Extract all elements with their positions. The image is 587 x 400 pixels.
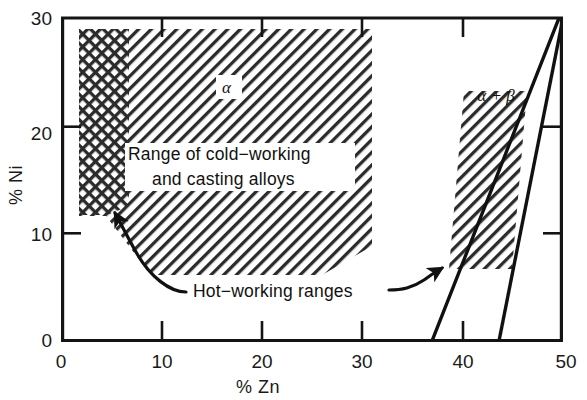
x-tick-label-0: 0 — [56, 351, 67, 372]
chart-svg: Range of cold−working and casting alloys… — [0, 0, 587, 400]
region-hot-working-left-band — [79, 29, 129, 215]
phase-label-alpha: α — [222, 78, 232, 97]
x-tick-label-50: 50 — [555, 351, 576, 372]
y-tick-label-0: 0 — [41, 330, 52, 351]
phase-label-alpha-plus-beta: α + β — [477, 86, 515, 105]
annotation-cold-working-line1: Range of cold−working — [128, 144, 311, 164]
y-tick-label-30: 30 — [31, 8, 52, 29]
y-tick-marks — [62, 18, 81, 340]
y-axis-title: % Ni — [6, 165, 26, 205]
y-tick-label-10: 10 — [31, 224, 52, 245]
boundary-alpha-beta-left-solvus — [432, 18, 559, 341]
x-tick-marks — [162, 321, 463, 340]
x-axis-title: % Zn — [236, 377, 280, 397]
x-tick-label-10: 10 — [151, 351, 172, 372]
annotation-hot-working-ranges: Hot−working ranges — [193, 281, 353, 301]
annotation-cold-working-line2: and casting alloys — [152, 169, 295, 189]
y-tick-label-20: 20 — [31, 123, 52, 144]
callout-arrow-right — [389, 268, 442, 290]
y-tick-marks-right — [543, 127, 562, 234]
x-tick-label-30: 30 — [351, 351, 372, 372]
region-hot-working-right-band — [449, 91, 527, 269]
phase-diagram-figure: Range of cold−working and casting alloys… — [0, 0, 587, 400]
x-tick-label-40: 40 — [452, 351, 473, 372]
x-tick-label-20: 20 — [251, 351, 272, 372]
